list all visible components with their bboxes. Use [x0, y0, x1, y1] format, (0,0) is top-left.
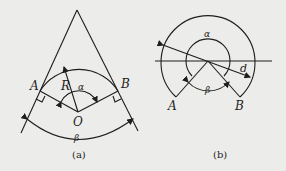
line-center-b — [208, 61, 240, 97]
label-alpha-b: α — [204, 29, 210, 39]
inner-arc-alpha — [186, 39, 230, 76]
figure-a: A B O R α β (a) — [21, 10, 138, 160]
right-tangent-line — [77, 10, 138, 131]
label-beta-b: β — [204, 85, 210, 95]
label-b-point-b: B — [234, 99, 244, 113]
label-r: R — [60, 79, 70, 93]
label-o-point: O — [73, 115, 83, 129]
label-alpha: α — [78, 82, 84, 92]
label-a-point: A — [29, 79, 39, 93]
left-tangent-line — [21, 10, 77, 133]
label-a-point-b: A — [167, 99, 177, 113]
right-angle-mark-b — [113, 96, 121, 102]
figure-b: A B α β d (b) — [155, 16, 272, 160]
caption-a: (a) — [72, 149, 86, 160]
diagram-canvas: A B O R α β (a) A B α β d (b) — [0, 0, 286, 171]
label-beta: β — [73, 133, 79, 143]
radius-ob — [78, 91, 118, 112]
label-b-point: B — [120, 77, 130, 91]
line-center-a — [176, 61, 208, 97]
caption-b: (b) — [213, 149, 227, 160]
label-d: d — [240, 62, 247, 75]
